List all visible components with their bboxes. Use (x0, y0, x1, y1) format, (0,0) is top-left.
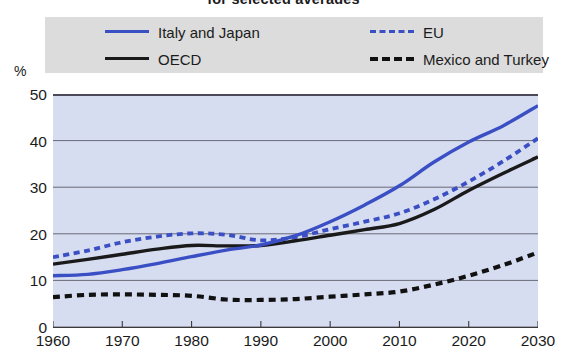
line-dashed-black-icon (370, 52, 414, 66)
x-axis-tick-label: 2030 (508, 333, 567, 349)
legend-item-mexico-and-turkey: Mexico and Turkey (370, 45, 549, 73)
y-axis-tick-label: 30 (7, 180, 47, 196)
legend-item-italy-and-japan: Italy and Japan (105, 18, 260, 46)
legend-label: EU (423, 25, 444, 40)
y-axis-tick-labels: 50403020100 (2, 94, 47, 327)
legend-label: OECD (158, 52, 201, 67)
x-axis-tick-labels: 19601970198019902000201020202030 (53, 333, 538, 355)
y-axis-unit-label: % (14, 63, 26, 79)
line-dashed-blue-icon (370, 25, 414, 39)
line-solid-black-icon (105, 52, 149, 66)
x-axis-tick-label: 1970 (92, 333, 152, 349)
x-axis-tick-label: 1980 (162, 333, 222, 349)
x-axis-line (53, 327, 538, 328)
legend-label: Italy and Japan (158, 25, 260, 40)
series-line (53, 157, 538, 264)
x-axis-tick-label: 1990 (231, 333, 291, 349)
y-axis-tick-label: 20 (7, 227, 47, 243)
plot-svg (53, 94, 538, 327)
chart-figure: for selected averages Italy and Japan EU… (0, 0, 567, 363)
plot-area (53, 94, 538, 327)
y-axis-tick-label: 50 (7, 87, 47, 103)
chart-title: for selected averages (0, 0, 567, 4)
x-axis-tick-label: 1960 (23, 333, 83, 349)
y-axis-tick-label: 40 (7, 134, 47, 150)
series-line (53, 252, 538, 300)
x-axis-tick-label: 2010 (369, 333, 429, 349)
legend-item-eu: EU (370, 18, 444, 46)
legend-item-oecd: OECD (105, 45, 201, 73)
x-axis-tick-label: 2000 (300, 333, 360, 349)
chart-legend: Italy and Japan EU OECD Mexico and Turke… (45, 17, 543, 73)
line-solid-blue-icon (105, 25, 149, 39)
y-axis-tick-label: 10 (7, 273, 47, 289)
x-axis-tick-label: 2020 (439, 333, 499, 349)
series-layer (53, 106, 538, 300)
legend-label: Mexico and Turkey (423, 52, 549, 67)
gridlines (53, 94, 538, 327)
